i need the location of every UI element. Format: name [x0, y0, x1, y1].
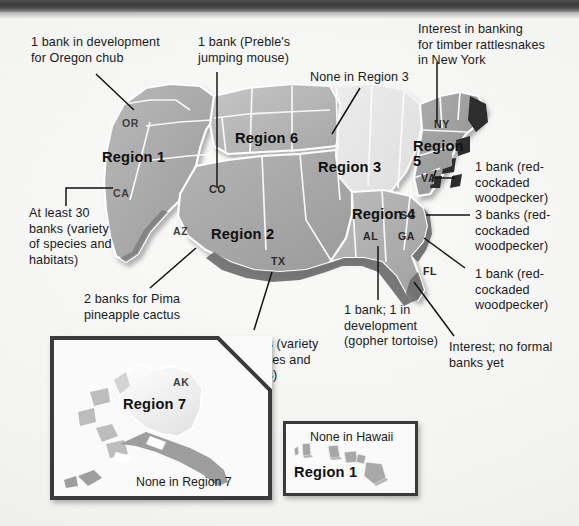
region-label-1: Region 1	[102, 150, 165, 165]
state-label-ny: NY	[434, 118, 450, 130]
state-label-ga: GA	[398, 230, 415, 242]
state-label-tx: TX	[271, 255, 286, 267]
alaska-caption: None in Region 7	[136, 475, 232, 489]
state-label-sc: SC	[400, 209, 416, 221]
annotation-oregon-chub: 1 bank in development for Oregon chub	[31, 35, 211, 66]
hawaii-caption: None in Hawaii	[310, 430, 393, 444]
leader-rcw-fl	[424, 238, 465, 268]
leader-pima-cactus	[150, 248, 196, 288]
annotation-prebles-mouse: 1 bank (Preble's jumping mouse)	[198, 35, 310, 66]
annotation-timber-rattlesnake: Interest in banking for timber rattlesna…	[418, 22, 568, 69]
leader-at-least-30	[66, 188, 113, 206]
annotation-gopher-tortoise: 1 bank; 1 in development (gopher tortois…	[344, 303, 462, 350]
state-label-ca: CA	[113, 187, 130, 199]
annotation-rcw-fl: 1 bank (red- cockaded woodpecker)	[475, 267, 575, 314]
annotation-pima-cactus: 2 banks for Pima pineapple cactus	[84, 292, 214, 323]
leader-oregon-chub	[96, 74, 134, 110]
annotation-rcw-sc: 3 banks (red- cockaded woodpecker)	[475, 208, 575, 255]
alaska-region-label: Region 7	[123, 397, 186, 412]
region-label-3: Region 3	[318, 160, 381, 175]
hawaii-inset-panel: None in Hawaii Region 1	[283, 421, 418, 496]
leader-none-region-3	[332, 88, 360, 134]
state-label-or: OR	[122, 117, 139, 129]
state-label-al: AL	[363, 230, 378, 242]
hawaii-region-label: Region 1	[294, 465, 357, 480]
alaska-inset-panel: AK Region 7 None in Region 7	[50, 336, 272, 500]
annotation-none-region-3: None in Region 3	[310, 70, 430, 86]
annotation-no-formal-banks: Interest; no formal banks yet	[449, 340, 573, 371]
state-label-az: AZ	[173, 225, 188, 237]
annotation-at-least-30-banks: At least 30 banks (variety of species an…	[29, 206, 133, 268]
region-label-6: Region 6	[235, 131, 298, 146]
alaska-state-label: AK	[173, 376, 190, 388]
region-label-5: Region 5	[413, 139, 459, 169]
state-label-fl: FL	[423, 265, 437, 277]
state-label-co: CO	[209, 183, 226, 195]
leader-four-banks-tx	[254, 272, 272, 330]
region-label-2: Region 2	[211, 227, 274, 242]
state-label-va: VA	[421, 172, 436, 184]
figure-canvas: 1 bank in development for Oregon chub 1 …	[0, 0, 579, 526]
annotation-rcw-va: 1 bank (red- cockaded woodpecker)	[475, 160, 575, 207]
